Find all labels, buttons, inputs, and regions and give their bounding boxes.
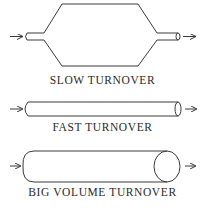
big-cylinder-end (154, 151, 180, 182)
fast-tube-outline (25, 102, 178, 116)
fast-turnover-label: FAST TURNOVER (0, 121, 205, 133)
big-volume-turnover-label: BIG VOLUME TURNOVER (0, 186, 205, 198)
slow-outlet-end (176, 33, 180, 40)
fast-turnover-shape (10, 102, 196, 116)
slow-turnover-shape (10, 4, 195, 66)
turnover-diagram (0, 0, 205, 210)
big-cylinder-outline (23, 151, 167, 182)
slow-turnover-label: SLOW TURNOVER (0, 74, 205, 86)
fast-tube-end (175, 102, 181, 116)
slow-reservoir-outline (26, 4, 179, 66)
big-volume-turnover-shape (10, 151, 195, 182)
